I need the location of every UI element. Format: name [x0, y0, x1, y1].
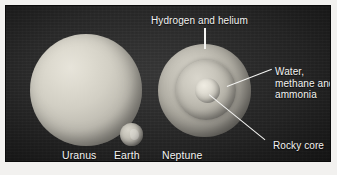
callout-label-rocky-core: Rocky core [273, 140, 324, 152]
hydrogen-leader-line [204, 28, 206, 49]
planet-name-neptune: Neptune [162, 149, 202, 161]
callout-label-water: Water, methane and ammonia [275, 66, 331, 101]
callout-label-hydrogen: Hydrogen and helium [151, 15, 248, 27]
earth-sphere [120, 123, 143, 146]
neptune-sphere [158, 44, 251, 137]
illustration-panel: Hydrogen and helium Water, methane and a… [5, 5, 331, 162]
earth-surface-highlight [130, 129, 139, 140]
neptune-mantle-layer [176, 60, 236, 120]
figure-container: Hydrogen and helium Water, methane and a… [0, 0, 337, 175]
planet-name-uranus: Uranus [62, 149, 96, 161]
planet-name-earth: Earth [114, 149, 140, 161]
